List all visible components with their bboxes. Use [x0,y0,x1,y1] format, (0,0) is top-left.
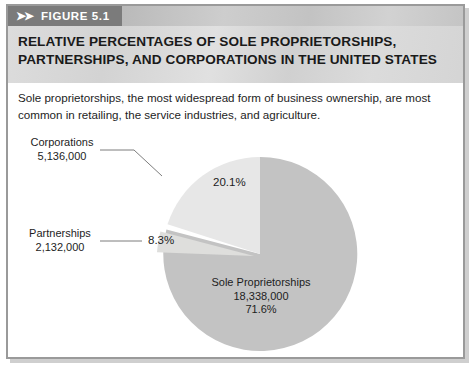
double-chevron-right-icon: ➤➤ [16,10,32,22]
title-band: RELATIVE PERCENTAGES OF SOLE PROPRIETORS… [8,26,463,83]
pie-chart: Corporations 5,136,000 20.1% Partnership… [8,128,463,353]
leader-line-corporations [100,150,162,176]
label-partnerships-value: 2,132,000 [20,241,100,255]
figure-title: RELATIVE PERCENTAGES OF SOLE PROPRIETORS… [18,33,455,69]
label-sole-percent: 71.6% [200,303,322,317]
header-band [122,6,463,26]
label-sole-proprietorships: Sole Proprietorships 18,338,000 71.6% [200,276,322,317]
label-sole-name: Sole Proprietorships [200,276,322,290]
figure-number-label: FIGURE 5.1 [41,10,110,22]
label-corporations-value: 5,136,000 [26,150,98,164]
figure-tab: ➤➤ FIGURE 5.1 [8,6,122,26]
figure-caption: Sole proprietorships, the most widesprea… [18,90,448,123]
label-sole-value: 18,338,000 [200,290,322,304]
slice-percent-corporations: 20.1% [213,176,246,188]
label-partnerships-name: Partnerships [20,227,100,241]
figure-container: RELATIVE PERCENTAGES OF SOLE PROPRIETORS… [0,0,473,369]
slice-percent-partnerships: 8.3% [148,234,174,246]
label-corporations: Corporations 5,136,000 [26,136,98,163]
label-partnerships: Partnerships 2,132,000 [20,227,100,254]
label-corporations-name: Corporations [26,136,98,150]
